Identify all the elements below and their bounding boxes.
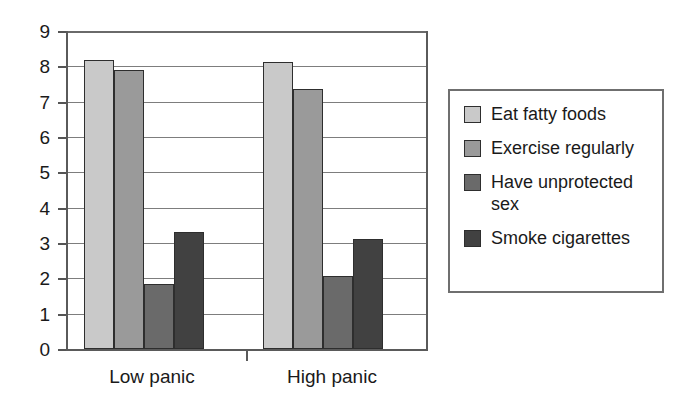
bar-low-panic-eat-fatty-foods (84, 60, 114, 349)
category-separator-tick (246, 351, 248, 361)
bar-low-panic-exercise-regularly (114, 70, 144, 349)
y-tick-label-6: 6 (26, 128, 50, 147)
x-category-label-low-panic: Low panic (92, 366, 212, 388)
bar-high-panic-have-unprotected-sex (323, 276, 353, 349)
legend-item-have-unprotected-sex: Have unprotected sex (464, 171, 662, 215)
legend-label-series-2: Exercise regularly (491, 137, 634, 159)
legend-item-eat-fatty-foods: Eat fatty foods (464, 103, 662, 125)
bar-high-panic-exercise-regularly (293, 89, 323, 349)
y-tick-label-9: 9 (26, 22, 50, 41)
legend-label-series-1: Eat fatty foods (491, 103, 606, 125)
legend-swatch-icon-series-2 (464, 140, 481, 157)
y-tick-label-5: 5 (26, 163, 50, 182)
y-tick-label-8: 8 (26, 57, 50, 76)
bar-high-panic-eat-fatty-foods (263, 62, 293, 349)
bar-high-panic-smoke-cigarettes (353, 239, 383, 349)
bar-chart: 9 8 7 6 5 4 3 2 1 0 Low panic High panic… (0, 0, 675, 405)
y-tick-label-4: 4 (26, 199, 50, 218)
legend-label-series-4: Smoke cigarettes (491, 227, 630, 249)
x-category-label-high-panic: High panic (272, 366, 392, 388)
y-tick-label-1: 1 (26, 305, 50, 324)
y-tick-label-0: 0 (26, 340, 50, 359)
legend-item-exercise-regularly: Exercise regularly (464, 137, 662, 159)
legend-swatch-icon-series-4 (464, 230, 481, 247)
bar-low-panic-smoke-cigarettes (174, 232, 204, 349)
y-tick-label-7: 7 (26, 93, 50, 112)
legend-swatch-icon-series-3 (464, 174, 481, 191)
plot-frame-right (426, 31, 428, 351)
y-axis-line (66, 31, 68, 351)
legend-swatch-icon-series-1 (464, 106, 481, 123)
legend: Eat fatty foods Exercise regularly Have … (448, 89, 664, 293)
legend-label-series-3: Have unprotected sex (491, 171, 651, 215)
bar-low-panic-have-unprotected-sex (144, 284, 174, 349)
y-tick-label-3: 3 (26, 234, 50, 253)
legend-item-smoke-cigarettes: Smoke cigarettes (464, 227, 662, 249)
plot-area (68, 31, 426, 349)
y-tick-label-2: 2 (26, 269, 50, 288)
